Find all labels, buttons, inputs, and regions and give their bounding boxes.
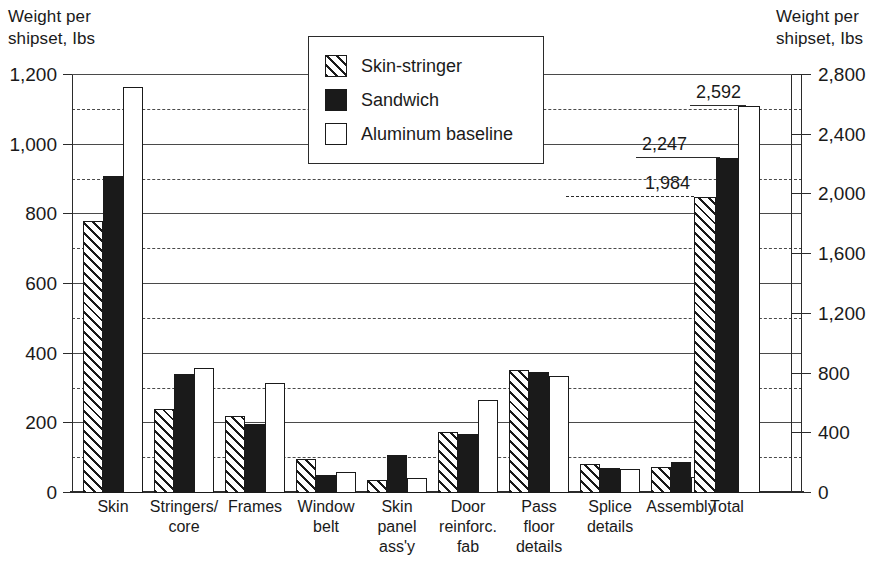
bar [600, 468, 620, 493]
bar [407, 478, 427, 493]
total-value-label: 2,592 [696, 83, 741, 101]
bar [296, 459, 316, 493]
bar [387, 455, 407, 493]
left-axis-tick-label: 400 [25, 344, 57, 363]
right-axis-tick-label: 400 [818, 423, 850, 442]
legend-item-label: Skin-stringer [361, 57, 462, 75]
bar-group [577, 75, 643, 493]
bar [549, 376, 569, 493]
bar [245, 424, 265, 493]
right-axis-tick-label: 2,800 [818, 65, 866, 84]
x-axis-label: Total [680, 497, 774, 517]
right-axis-tick-label: 0 [818, 483, 829, 502]
bar [123, 87, 143, 493]
filled-square-icon [325, 89, 347, 111]
chart-container: Weight per shipset, Ibs Weight per ships… [0, 0, 892, 572]
bar [671, 462, 691, 493]
bar [694, 197, 716, 493]
bar [225, 416, 245, 493]
bar [367, 480, 387, 493]
left-axis-tick [63, 353, 72, 354]
bar [174, 374, 194, 493]
bar [651, 467, 671, 493]
right-axis-caption: Weight per shipset, Ibs [776, 6, 886, 50]
bar [103, 176, 123, 493]
left-axis-tick [63, 492, 72, 493]
bar [458, 434, 478, 493]
bar [154, 409, 174, 493]
bar [265, 383, 285, 493]
right-axis-tick-label: 800 [818, 364, 850, 383]
left-axis-tick [63, 283, 72, 284]
bar [316, 475, 336, 493]
left-axis-caption: Weight per shipset, Ibs [8, 6, 95, 50]
legend-item-label: Aluminum baseline [361, 125, 513, 143]
left-axis-tick-label: 600 [25, 274, 57, 293]
chart-legend: Skin-stringerSandwichAluminum baseline [308, 36, 544, 164]
legend-item: Aluminum baseline [325, 117, 529, 151]
callout-leader-line [690, 105, 746, 106]
bar [438, 432, 458, 493]
right-axis-tick-label: 1,200 [818, 304, 866, 323]
bar [194, 368, 214, 493]
left-axis-tick [63, 422, 72, 423]
x-axis-labels: SkinStringers/ coreFramesWindow beltSkin… [72, 497, 802, 572]
legend-item: Skin-stringer [325, 49, 529, 83]
legend-item: Sandwich [325, 83, 529, 117]
left-axis-tick-label: 800 [25, 204, 57, 223]
bar [478, 400, 498, 493]
bar [716, 158, 738, 493]
left-axis-tick-label: 0 [46, 483, 57, 502]
bar-group [151, 75, 217, 493]
bar [580, 464, 600, 493]
left-axis-tick-label: 1,000 [9, 135, 57, 154]
left-axis-tick-label: 200 [25, 413, 57, 432]
bar-group [694, 75, 760, 493]
callout-leader-line [566, 196, 694, 197]
bar-group [222, 75, 288, 493]
bar [738, 106, 760, 493]
bar [336, 472, 356, 493]
right-axis-tick-label: 2,000 [818, 184, 866, 203]
hatched-square-icon [325, 55, 347, 77]
bar [509, 370, 529, 493]
left-axis-tick [63, 144, 72, 145]
empty-square-icon [325, 123, 347, 145]
callout-leader-line [636, 157, 720, 158]
bar [620, 469, 640, 493]
total-value-label: 1,984 [645, 174, 690, 192]
legend-item-label: Sandwich [361, 91, 439, 109]
bar [529, 372, 549, 493]
left-axis-tick [63, 74, 72, 75]
right-axis-tick-label: 2,400 [818, 125, 866, 144]
bar [83, 221, 103, 493]
left-axis-tick-label: 1,200 [9, 65, 57, 84]
total-value-label: 2,247 [642, 135, 687, 153]
left-axis-tick [63, 213, 72, 214]
bar-group [80, 75, 146, 493]
right-axis-tick-label: 1,600 [818, 244, 866, 263]
